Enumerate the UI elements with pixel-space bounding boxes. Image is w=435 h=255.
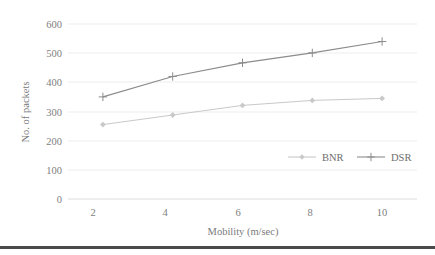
x-tick-4: 4 — [162, 207, 168, 218]
datapoint-bnr-8 — [309, 98, 315, 104]
datapoint-bnr-4 — [170, 112, 176, 118]
datapoint-bnr-10 — [379, 96, 385, 102]
legend-label-bnr: BNR — [322, 152, 344, 163]
y-axis-title: No. of packets — [20, 82, 31, 143]
chart-figure: 600 500 400 300 200 100 0 2 4 6 8 10 Mob… — [0, 0, 435, 244]
x-tick-2: 2 — [90, 207, 95, 218]
datapoint-dsr-2 — [99, 93, 107, 101]
y-tick-labels: 600 500 400 300 200 100 0 — [46, 19, 62, 205]
series-bnr — [100, 96, 385, 128]
line-chart: 600 500 400 300 200 100 0 2 4 6 8 10 Mob… — [0, 0, 435, 244]
series-dsr — [99, 37, 387, 101]
y-tick-400: 400 — [46, 77, 62, 88]
datapoint-bnr-6 — [240, 103, 246, 109]
y-tick-500: 500 — [46, 48, 62, 59]
y-tick-100: 100 — [46, 165, 62, 176]
datapoint-dsr-10 — [378, 37, 386, 45]
x-axis-title: Mobility (m/sec) — [208, 226, 279, 238]
legend-marker-bnr-diamond-icon — [299, 154, 304, 160]
datapoint-dsr-6 — [238, 59, 246, 67]
datapoint-bnr-2 — [100, 122, 106, 128]
series-line-dsr — [103, 42, 382, 97]
legend: BNR DSR — [288, 152, 411, 163]
bottom-divider-rule — [0, 246, 435, 249]
datapoint-dsr-8 — [308, 49, 316, 57]
y-tick-300: 300 — [46, 107, 62, 118]
y-tick-200: 200 — [46, 136, 62, 147]
x-tick-10: 10 — [377, 207, 388, 218]
x-tick-8: 8 — [307, 207, 312, 218]
series-line-bnr — [103, 98, 382, 124]
y-tick-0: 0 — [57, 194, 62, 205]
legend-label-dsr: DSR — [391, 152, 411, 163]
legend-marker-dsr-plus-icon — [367, 153, 375, 161]
x-tick-6: 6 — [235, 207, 240, 218]
x-tick-labels: 2 4 6 8 10 — [90, 207, 387, 218]
gridlines — [68, 24, 417, 170]
y-tick-600: 600 — [46, 19, 62, 30]
datapoint-dsr-4 — [169, 72, 177, 80]
